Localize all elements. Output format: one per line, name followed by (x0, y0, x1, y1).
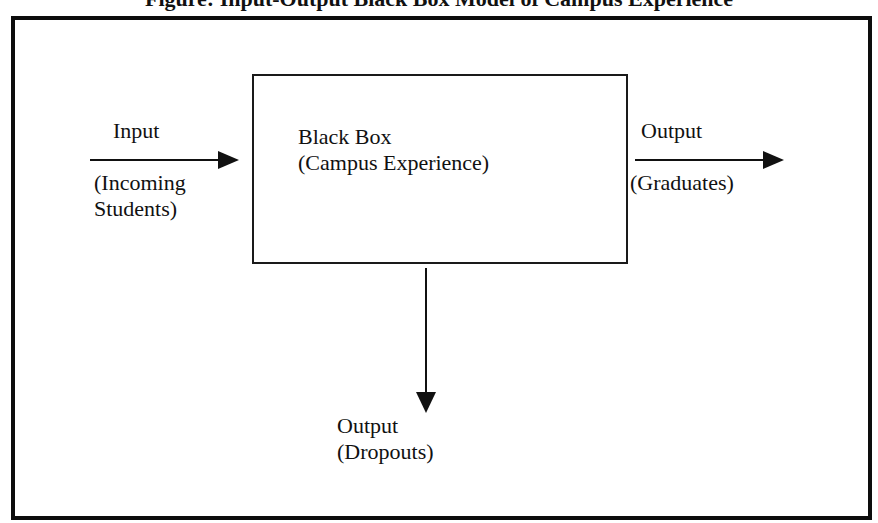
diagram-title-clipped: Figure: Input-Output Black Box Model of … (0, 0, 878, 12)
input-label-line2: Students) (94, 196, 177, 221)
output-dropouts-heading: Output (337, 413, 398, 438)
input-heading: Input (113, 118, 159, 143)
input-label-line1: (Incoming (94, 170, 186, 195)
output-graduates-subheading: (Graduates) (630, 170, 734, 195)
black-box-subheading: (Campus Experience) (298, 150, 489, 175)
output-graduates-heading: Output (641, 118, 702, 143)
black-box-heading: Black Box (298, 124, 392, 149)
output-dropouts-subheading: (Dropouts) (337, 439, 434, 464)
